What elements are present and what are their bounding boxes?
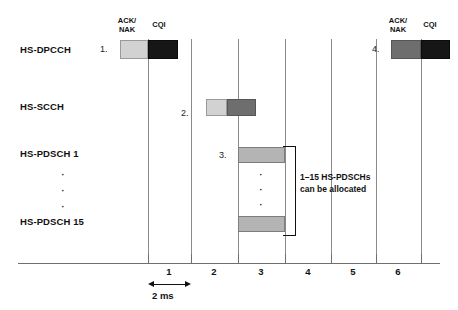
axis-number-5: 5	[339, 266, 367, 277]
axis-tick-5	[376, 254, 377, 263]
block-pdsch-last	[238, 216, 285, 232]
block-scch-right	[227, 99, 256, 116]
caption-cqi-left: CQI	[146, 20, 172, 29]
annotation-line-1: 1–15 HS-PDSCHs	[300, 172, 370, 183]
marker-4: 4.	[372, 44, 380, 54]
axis-tick-6	[421, 254, 422, 263]
marker-3: 3.	[219, 150, 227, 160]
interval-label: 2 ms	[152, 290, 174, 301]
caption-ack-nak-right-line2: NAK	[381, 25, 415, 34]
gridline-slot-6	[421, 39, 422, 263]
block-cqi-4	[421, 40, 450, 59]
gridline-slot-1	[191, 39, 192, 263]
axis-number-4: 4	[294, 266, 322, 277]
gridline-slot-0	[148, 39, 149, 263]
axis-number-3: 3	[247, 266, 275, 277]
caption-ack-nak-right-line1: ACK/	[381, 16, 415, 25]
axis-tick-3	[285, 254, 286, 263]
block-scch-left	[206, 99, 227, 116]
time-axis-line	[18, 263, 440, 264]
row-gap-dot-2: ·	[58, 188, 68, 195]
gridline-slot-4	[331, 39, 332, 263]
block-pdsch-first	[238, 147, 285, 163]
pdsch-stack-dot-1: ·	[256, 172, 266, 179]
row-label-hs-scch: HS-SCCH	[20, 101, 64, 112]
interval-arrow-line	[153, 284, 186, 285]
axis-tick-4	[331, 254, 332, 263]
pdsch-range-bracket	[283, 146, 296, 236]
axis-number-6: 6	[384, 266, 412, 277]
axis-tick-2	[238, 254, 239, 263]
caption-cqi-right: CQI	[417, 20, 443, 29]
row-gap-dot-3: ·	[58, 204, 68, 211]
block-ack-nak-1	[120, 40, 148, 59]
pdsch-stack-dot-3: ·	[256, 202, 266, 209]
row-label-hs-pdsch-15: HS-PDSCH 15	[20, 216, 84, 227]
caption-ack-nak-left-line1: ACK/	[110, 16, 144, 25]
block-ack-nak-4	[391, 40, 421, 59]
pdsch-stack-dot-2: ·	[256, 187, 266, 194]
axis-tick-1	[191, 254, 192, 263]
marker-1: 1.	[100, 44, 108, 54]
axis-tick-0	[148, 254, 149, 263]
gridline-slot-5	[376, 39, 377, 263]
diagram-canvas: HS-DPCCH HS-SCCH HS-PDSCH 1 HS-PDSCH 15 …	[0, 0, 458, 310]
axis-number-2: 2	[200, 266, 228, 277]
caption-ack-nak-left-line2: NAK	[110, 25, 144, 34]
annotation-line-2: can be allocated	[300, 184, 366, 195]
axis-number-1: 1	[155, 266, 183, 277]
row-gap-dot-1: ·	[58, 172, 68, 179]
row-label-hs-dpcch: HS-DPCCH	[20, 44, 71, 55]
block-cqi-1	[148, 40, 178, 59]
interval-arrow-head-right	[185, 281, 191, 287]
row-label-hs-pdsch-1: HS-PDSCH 1	[20, 148, 79, 159]
marker-2: 2.	[181, 108, 189, 118]
